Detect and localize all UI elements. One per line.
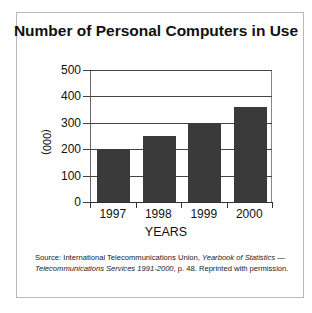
- y-tick: [83, 96, 90, 97]
- y-tick: [83, 202, 90, 203]
- y-tick: [83, 123, 90, 124]
- y-tick-label: 0: [51, 195, 81, 209]
- y-tick-label: 500: [51, 63, 81, 77]
- source-suffix: , p. 48. Reprinted with permission.: [174, 264, 289, 273]
- source-prefix: Source: International Telecommunications…: [35, 253, 200, 262]
- x-tick-label: 1999: [181, 207, 227, 221]
- plot-right-border: [271, 70, 272, 202]
- bar-1999: [188, 123, 221, 202]
- x-tick-label: 1998: [135, 207, 181, 221]
- bar-1997: [97, 149, 130, 202]
- y-tick-label: 100: [51, 169, 81, 183]
- gridline: [90, 96, 272, 97]
- bar-2000: [234, 107, 267, 202]
- y-tick: [83, 149, 90, 150]
- y-tick: [83, 70, 90, 71]
- y-tick-label: 200: [51, 142, 81, 156]
- y-tick-label: 400: [51, 89, 81, 103]
- x-tick-label: 2000: [226, 207, 272, 221]
- y-tick: [83, 176, 90, 177]
- bar-1998: [143, 136, 176, 202]
- gridline: [90, 70, 272, 71]
- chart-title: Number of Personal Computers in Use: [0, 22, 312, 40]
- source-note: Source: International Telecommunications…: [35, 252, 290, 274]
- plot-area: 0100200300400500 1997199819992000: [90, 70, 272, 202]
- y-axis: [90, 70, 91, 202]
- y-tick-label: 300: [51, 116, 81, 130]
- x-axis-title: YEARS: [0, 225, 312, 239]
- x-tick-label: 1997: [90, 207, 136, 221]
